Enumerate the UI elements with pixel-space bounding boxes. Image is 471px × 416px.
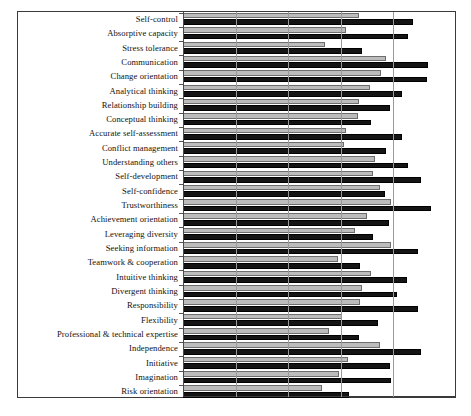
bars-cell	[183, 26, 455, 40]
y-axis-tick	[179, 313, 183, 314]
y-axis-tick	[179, 227, 183, 228]
bar-series-dark	[183, 177, 421, 183]
y-axis-tick	[179, 41, 183, 42]
y-axis-tick	[179, 242, 183, 243]
category-label: Independence	[18, 342, 183, 356]
category-label: Accurate self-assessment	[18, 127, 183, 141]
bar-series-dark	[183, 163, 408, 169]
category-label: Absorptive capacity	[18, 26, 183, 40]
bars-cell	[183, 55, 455, 69]
category-label: Intuitive thinking	[18, 270, 183, 284]
bar-series-dark	[183, 120, 371, 126]
y-axis-tick	[179, 371, 183, 372]
bar-series-light	[183, 27, 346, 33]
bar-series-dark	[183, 220, 389, 226]
y-axis-tick	[179, 27, 183, 28]
y-axis-tick	[179, 299, 183, 300]
bar-series-dark	[183, 62, 428, 68]
category-label: Communication	[18, 55, 183, 69]
y-axis-tick	[179, 199, 183, 200]
bar-series-light	[183, 156, 375, 162]
category-label: Conceptual thinking	[18, 112, 183, 126]
bar-series-dark	[183, 363, 390, 369]
y-axis-tick	[179, 270, 183, 271]
y-axis-tick	[179, 127, 183, 128]
category-label: Understanding others	[18, 155, 183, 169]
y-axis-tick	[179, 55, 183, 56]
bar-series-light	[183, 242, 391, 248]
bar-series-light	[183, 213, 367, 219]
bar-series-dark	[183, 134, 402, 140]
bar-series-dark	[183, 277, 407, 283]
category-label: Divergent thinking	[18, 284, 183, 298]
bar-series-dark	[183, 91, 402, 97]
bar-series-light	[183, 70, 381, 76]
y-axis-tick	[179, 213, 183, 214]
y-axis-tick	[179, 385, 183, 386]
y-axis-tick	[179, 70, 183, 71]
bars-cell	[183, 227, 455, 241]
y-axis-tick	[179, 184, 183, 185]
category-label: Imagination	[18, 370, 183, 384]
bar-series-light	[183, 385, 322, 391]
bar-series-dark	[183, 306, 418, 312]
bar-series-light	[183, 128, 346, 134]
y-axis-tick	[179, 256, 183, 257]
bars-cell	[183, 342, 455, 356]
category-label: Professional & technical expertise	[18, 327, 183, 341]
plot-bottom-border	[183, 396, 455, 397]
category-label: Trustworthiness	[18, 198, 183, 212]
y-axis-tick	[179, 13, 183, 14]
category-label: Flexibility	[18, 313, 183, 327]
bar-series-dark	[183, 249, 418, 255]
bar-series-dark	[183, 292, 397, 298]
bar-series-light	[183, 13, 359, 19]
bars-cell	[183, 141, 455, 155]
bar-series-dark	[183, 191, 385, 197]
bars-cell	[183, 112, 455, 126]
category-label: Achievement orientation	[18, 213, 183, 227]
bar-series-dark	[183, 19, 413, 25]
y-axis-tick	[179, 328, 183, 329]
category-label: Seeking information	[18, 241, 183, 255]
bars-cell	[183, 313, 455, 327]
category-label: Relationship building	[18, 98, 183, 112]
category-label: Leveraging diversity	[18, 227, 183, 241]
bars-cell	[183, 270, 455, 284]
bars-cell	[183, 12, 455, 26]
y-axis-tick	[179, 84, 183, 85]
bar-series-light	[183, 42, 325, 48]
bar-series-light	[183, 56, 386, 62]
gridline-x-1	[236, 12, 237, 397]
bars-cell	[183, 69, 455, 83]
bar-series-light	[183, 142, 344, 148]
figure-root: Self-controlAbsorptive capacityStress to…	[0, 0, 471, 416]
bar-series-dark	[183, 335, 359, 341]
category-label: Analytical thinking	[18, 84, 183, 98]
bar-series-light	[183, 357, 348, 363]
bar-series-light	[183, 171, 373, 177]
plot-right-border	[455, 12, 456, 397]
category-label: Self-confidence	[18, 184, 183, 198]
y-axis-tick	[179, 141, 183, 142]
category-label: Initiative	[18, 356, 183, 370]
bars-cell	[183, 198, 455, 212]
bar-series-dark	[183, 48, 362, 54]
category-label: Responsibility	[18, 299, 183, 313]
bar-series-light	[183, 342, 380, 348]
bars-cell	[183, 284, 455, 298]
y-axis-tick	[179, 156, 183, 157]
y-axis-tick	[179, 356, 183, 357]
bars-cell	[183, 155, 455, 169]
bar-series-dark	[183, 77, 427, 83]
chart-canvas: Self-controlAbsorptive capacityStress to…	[0, 0, 471, 416]
y-axis-tick	[179, 170, 183, 171]
category-label: Change orientation	[18, 69, 183, 83]
category-label: Stress tolerance	[18, 41, 183, 55]
category-label: Self-development	[18, 170, 183, 184]
bars-cell	[183, 127, 455, 141]
bars-cell	[183, 327, 455, 341]
bar-series-light	[183, 285, 362, 291]
category-label: Self-control	[18, 12, 183, 26]
category-label: Risk orientation	[18, 385, 183, 399]
